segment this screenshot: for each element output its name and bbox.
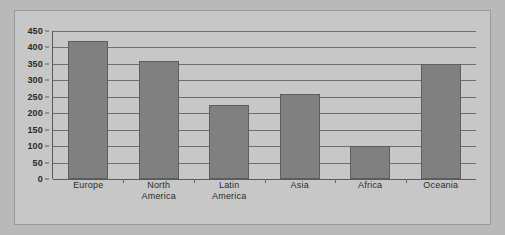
y-axis-tick-labels: 050100150200250300350400450 [15, 31, 49, 179]
x-axis-category-label: Oceania [406, 180, 476, 191]
x-axis-category-label: Asia [265, 180, 335, 191]
y-axis-tick-label: 350 [27, 59, 43, 69]
y-axis-tick-mark [45, 47, 49, 48]
x-axis-category-label: Europe [53, 180, 123, 191]
y-axis-tick-label: 300 [27, 75, 43, 85]
x-axis-category-label-line: Oceania [406, 180, 476, 191]
y-axis-tick-mark [45, 146, 49, 147]
y-axis-tick-mark [45, 31, 49, 32]
x-axis-category-label: NorthAmerica [123, 180, 193, 202]
x-axis-category-label: Africa [335, 180, 405, 191]
y-axis-tick-mark [45, 96, 49, 97]
y-axis-tick-mark [45, 63, 49, 64]
y-axis-tick-label: 150 [27, 125, 43, 135]
y-axis-tick-label: 0 [38, 174, 43, 184]
y-axis-tick-label: 200 [27, 108, 43, 118]
y-axis-tick-mark [45, 80, 49, 81]
plot-area [53, 31, 476, 179]
y-axis-tick-label: 450 [27, 26, 43, 36]
x-axis-category-labels: EuropeNorthAmericaLatinAmericaAsiaAfrica… [53, 180, 476, 214]
x-axis-category-label-line: Latin [194, 180, 264, 191]
x-axis-category-label-line: North [123, 180, 193, 191]
y-axis-tick-label: 250 [27, 92, 43, 102]
bar-chart-figure: 050100150200250300350400450 EuropeNorthA… [14, 10, 491, 225]
y-axis-tick-mark [45, 179, 49, 180]
y-axis-tick-mark [45, 129, 49, 130]
x-axis-ticks-layer [53, 31, 476, 179]
x-axis-category-label-line: Africa [335, 180, 405, 191]
x-axis-category-label: LatinAmerica [194, 180, 264, 202]
x-axis-category-label-line: Asia [265, 180, 335, 191]
y-axis-tick-label: 50 [33, 158, 43, 168]
y-axis-tick-mark [45, 162, 49, 163]
x-axis-category-label-line: America [123, 191, 193, 202]
y-axis-tick-label: 100 [27, 141, 43, 151]
x-axis-category-label-line: America [194, 191, 264, 202]
x-axis-category-label-line: Europe [53, 180, 123, 191]
y-axis-tick-label: 400 [27, 42, 43, 52]
y-axis-tick-mark [45, 113, 49, 114]
